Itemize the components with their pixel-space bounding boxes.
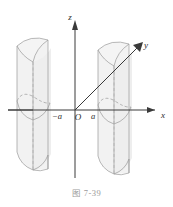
half-cylinder-left: [17, 38, 51, 171]
z-axis-label: z: [67, 12, 72, 22]
figure-caption: 图 7-39: [0, 186, 173, 198]
origin-label: O: [75, 112, 82, 122]
z-axis-arrowhead: [72, 20, 78, 30]
y-axis-label: y: [143, 40, 148, 50]
coordinate-figure: x y z O −a a: [0, 0, 173, 207]
tick-label-negative-a: −a: [52, 111, 62, 121]
x-axis-label: x: [160, 110, 165, 120]
figure-container: x y z O −a a 图 7-39: [0, 0, 173, 207]
z-axis: [72, 20, 78, 178]
half-cylinder-right: [98, 42, 132, 175]
x-axis-arrowhead: [147, 107, 155, 113]
tick-label-positive-a: a: [91, 111, 95, 121]
